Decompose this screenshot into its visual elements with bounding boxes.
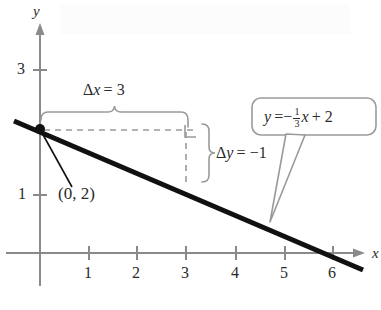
delta-x-value: = 3 <box>104 81 125 98</box>
equation-denominator: 3 <box>293 118 300 130</box>
delta-y-variable: y <box>226 144 233 161</box>
y-tick-label-1: 1 <box>18 186 26 202</box>
delta-x-variable: x <box>93 81 100 98</box>
equation-lhs: y <box>264 108 271 125</box>
y-axis-arrowhead <box>36 23 45 35</box>
linear-function-graph-figure: y x 3 1 1 2 3 4 5 6 Δx = 3 Δy = −1 (0, 2… <box>0 0 381 310</box>
x-tick-label-2: 2 <box>132 265 140 281</box>
x-tick-label-5: 5 <box>280 265 288 281</box>
y-tick-label-3: 3 <box>17 61 25 77</box>
x-axis-arrowhead <box>353 249 365 258</box>
y-intercept-point <box>35 124 45 134</box>
x-tick-label-3: 3 <box>181 265 189 281</box>
x-tick-label-4: 4 <box>231 265 239 281</box>
equation-variable: x <box>301 108 308 125</box>
y-intercept-point-label: (0, 2) <box>58 185 95 202</box>
equation-constant: + 2 <box>312 108 333 125</box>
delta-y-annotation: Δy = −1 <box>216 145 267 161</box>
y-axis-label: y <box>33 4 40 19</box>
equation-sign: − <box>283 108 292 125</box>
delta-y-symbol: Δ <box>216 144 226 161</box>
equation-fraction: 13 <box>293 107 300 129</box>
equation-numerator: 1 <box>293 107 300 118</box>
x-tick-label-1: 1 <box>84 265 92 281</box>
delta-y-value: = −1 <box>237 144 267 161</box>
equation-text: y =−13x + 2 <box>264 107 333 129</box>
equation-equals: = <box>274 108 283 125</box>
delta-x-annotation: Δx = 3 <box>83 82 125 98</box>
graph-canvas <box>0 0 381 310</box>
equation-callout-tail <box>270 134 305 222</box>
x-axis-label: x <box>372 246 379 261</box>
delta-x-brace <box>41 106 188 127</box>
delta-y-brace <box>202 124 215 182</box>
x-tick-label-6: 6 <box>328 265 336 281</box>
delta-x-symbol: Δ <box>83 81 93 98</box>
